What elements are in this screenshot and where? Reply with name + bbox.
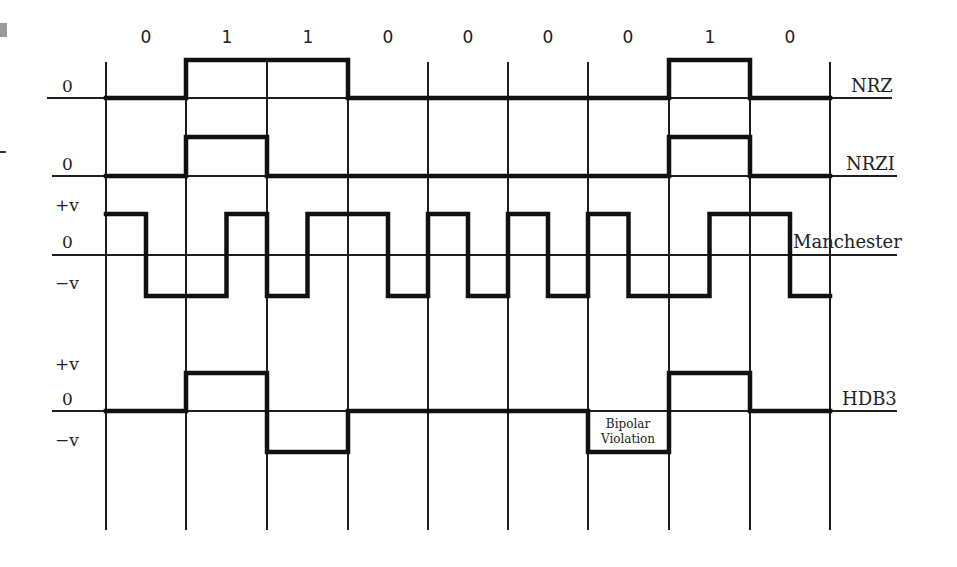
bit-label-0: 0	[141, 27, 152, 47]
level-labels: 0 0 +v 0 −v +v 0 −v	[55, 76, 79, 450]
waveform-nrz	[106, 60, 830, 98]
manchester-zero-label: 0	[62, 232, 73, 252]
hdb3-zero-label: 0	[62, 389, 73, 409]
bit-label-3: 0	[383, 27, 394, 47]
nrzi-zero-label: 0	[62, 154, 73, 174]
signal-baselines	[47, 98, 897, 411]
corner-mark	[0, 23, 7, 37]
annotation-line-1: Bipolar	[606, 417, 651, 431]
signal-name-hdb3: HDB3	[842, 388, 897, 409]
manchester-plus-label: +v	[55, 195, 79, 215]
hdb3-minus-label: −v	[55, 430, 79, 450]
signal-name-manchester: Manchester	[793, 231, 902, 252]
waveform-hdb3	[106, 373, 830, 452]
bit-label-1: 1	[222, 27, 233, 47]
signal-name-nrzi: NRZI	[846, 153, 895, 174]
bit-label-8: 0	[785, 27, 796, 47]
bit-label-4: 0	[463, 27, 474, 47]
hdb3-plus-label: +v	[55, 354, 79, 374]
bit-label-7: 1	[705, 27, 716, 47]
bit-label-2: 1	[303, 27, 314, 47]
line-coding-diagram: 0 1 1 0 0 0 0 1 0 0 0 +v 0 −v +v 0 −v NR…	[0, 0, 957, 567]
nrz-zero-label: 0	[62, 76, 73, 96]
bipolar-violation-annotation: Bipolar Violation	[600, 417, 655, 446]
signal-name-nrz: NRZ	[851, 75, 893, 96]
bit-labels: 0 1 1 0 0 0 0 1 0	[141, 27, 796, 47]
waveform-nrzi	[106, 137, 830, 176]
bit-label-5: 0	[543, 27, 554, 47]
signal-names: NRZ NRZI Manchester HDB3	[793, 75, 902, 409]
manchester-minus-label: −v	[55, 273, 79, 293]
bit-label-6: 0	[623, 27, 634, 47]
annotation-line-2: Violation	[600, 432, 655, 446]
